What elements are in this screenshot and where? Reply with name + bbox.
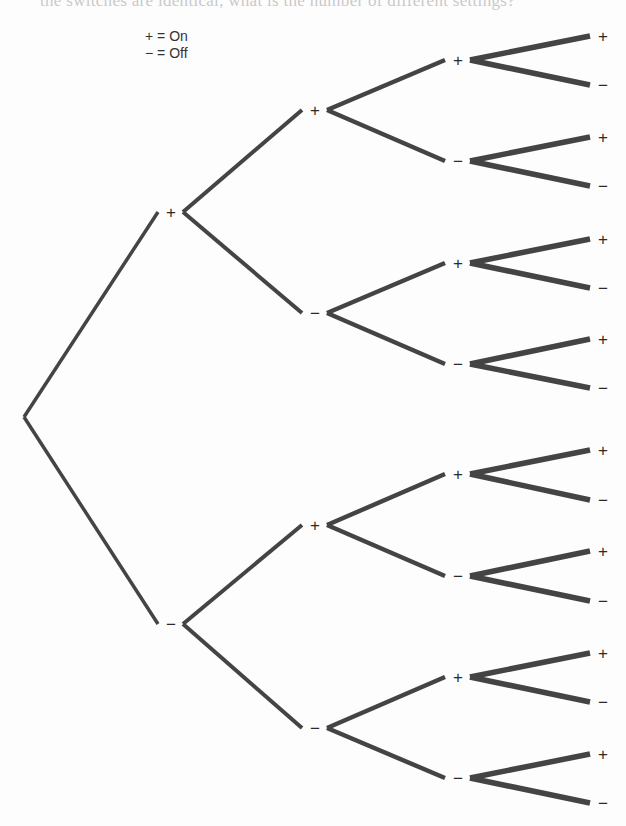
- branch-line: [470, 60, 590, 85]
- on-node-label: +: [598, 441, 608, 460]
- branch-line: [470, 450, 590, 474]
- branch-line: [327, 728, 445, 778]
- branch-line: [327, 110, 445, 161]
- branch-line: [327, 263, 445, 313]
- on-node-label: +: [598, 230, 608, 249]
- branch-line: [470, 551, 590, 576]
- branch-line: [183, 624, 302, 728]
- switch-tree-diagram: +−+−+−+−+−+−+−+−+−+−+−+−+−+−+−: [0, 0, 626, 826]
- off-node-label: −: [310, 304, 320, 323]
- branch-line: [470, 474, 590, 500]
- on-node-label: +: [310, 516, 320, 535]
- branch-line: [470, 239, 590, 263]
- book-page: the switches are identical, what is the …: [0, 0, 626, 826]
- off-node-label: −: [598, 177, 608, 196]
- off-node-label: −: [310, 719, 320, 738]
- off-node-label: −: [166, 615, 176, 634]
- branch-line: [470, 263, 590, 288]
- branch-line: [470, 778, 590, 803]
- on-node-label: +: [453, 51, 463, 70]
- on-node-label: +: [166, 203, 176, 222]
- on-node-label: +: [598, 330, 608, 349]
- off-node-label: −: [453, 567, 463, 586]
- branch-line: [327, 474, 445, 525]
- off-node-label: −: [598, 379, 608, 398]
- branch-line: [470, 653, 590, 677]
- branch-line: [470, 36, 590, 60]
- tree-branches: [24, 36, 590, 803]
- branch-line: [470, 161, 590, 186]
- branch-line: [470, 754, 590, 778]
- off-node-label: −: [598, 693, 608, 712]
- branch-line: [470, 339, 590, 364]
- branch-line: [470, 576, 590, 601]
- branch-line: [327, 60, 445, 110]
- off-node-label: −: [598, 279, 608, 298]
- on-node-label: +: [310, 101, 320, 120]
- off-node-label: −: [453, 355, 463, 374]
- branch-line: [24, 212, 158, 417]
- branch-line: [183, 110, 302, 212]
- off-node-label: −: [598, 491, 608, 510]
- on-node-label: +: [598, 644, 608, 663]
- branch-line: [470, 137, 590, 161]
- off-node-label: −: [453, 152, 463, 171]
- on-node-label: +: [453, 254, 463, 273]
- on-node-label: +: [453, 668, 463, 687]
- branch-line: [183, 525, 302, 624]
- branch-line: [327, 313, 445, 364]
- on-node-label: +: [598, 745, 608, 764]
- on-node-label: +: [598, 128, 608, 147]
- off-node-label: −: [598, 794, 608, 813]
- branch-line: [24, 417, 158, 624]
- off-node-label: −: [598, 592, 608, 611]
- branch-line: [183, 212, 302, 313]
- branch-line: [327, 677, 445, 728]
- branch-line: [470, 364, 590, 388]
- branch-line: [327, 525, 445, 576]
- on-node-label: +: [598, 542, 608, 561]
- on-node-label: +: [598, 27, 608, 46]
- off-node-label: −: [598, 76, 608, 95]
- on-node-label: +: [453, 465, 463, 484]
- off-node-label: −: [453, 769, 463, 788]
- branch-line: [470, 677, 590, 702]
